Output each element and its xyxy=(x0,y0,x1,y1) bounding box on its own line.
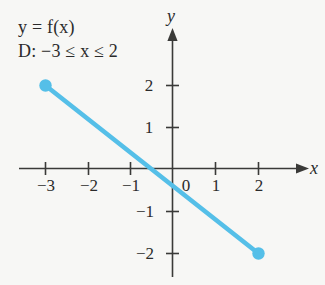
x-axis-label: x xyxy=(310,158,318,179)
function-annotation: y = f(x) D: −3 ≤ x ≤ 2 xyxy=(18,16,118,64)
y-tick-label--2: −2 xyxy=(132,244,158,264)
y-tick-label-2: 2 xyxy=(140,76,158,96)
function-segment xyxy=(46,86,259,254)
x-tick-label-2: 2 xyxy=(251,176,267,196)
function-graph-figure: y = f(x) D: −3 ≤ x ≤ 2 x y −3 −2 −1 0 1 … xyxy=(0,0,325,285)
x-tick-label--1: −1 xyxy=(115,176,147,196)
x-tick-label--3: −3 xyxy=(30,176,62,196)
y-tick-label-1: 1 xyxy=(140,118,158,138)
function-equation-label: y = f(x) xyxy=(18,16,118,40)
x-tick-label-1: 1 xyxy=(208,176,224,196)
y-axis-arrowhead xyxy=(167,28,177,41)
y-tick-label--1: −1 xyxy=(132,202,158,222)
x-tick-label--2: −2 xyxy=(73,176,105,196)
x-axis-arrowhead xyxy=(296,163,309,173)
domain-label: D: −3 ≤ x ≤ 2 xyxy=(18,40,118,64)
left-endpoint-dot xyxy=(39,79,51,91)
x-tick-label-0: 0 xyxy=(178,176,194,196)
y-axis-label: y xyxy=(167,6,175,27)
right-endpoint-dot xyxy=(252,247,264,259)
